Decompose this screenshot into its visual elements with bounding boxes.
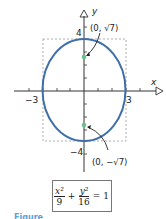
- fraction-y: y² 16: [78, 186, 89, 207]
- fraction-x-denominator: 9: [57, 197, 63, 207]
- x-axis-label: x: [150, 77, 157, 87]
- focus-bottom-label: (0, −√7): [92, 157, 127, 167]
- fraction-x: x² 9: [54, 186, 65, 207]
- focus-top-label: (0, √7): [90, 23, 118, 33]
- y-tick-label-neg4: −4: [70, 147, 84, 157]
- y-axis-label: y: [91, 6, 98, 16]
- x-tick-label-3: 3: [126, 95, 132, 105]
- focus-bottom-point: [82, 123, 87, 128]
- equals-one: = 1: [93, 191, 109, 201]
- focus-top-point: [82, 55, 87, 60]
- plus-sign: +: [68, 191, 76, 201]
- x-tick-label-neg3: −3: [25, 95, 38, 105]
- y-axis-arrow-icon: [80, 10, 88, 17]
- y-tick-label-4: 4: [76, 28, 82, 38]
- figure-caption: Figure: [14, 213, 43, 219]
- fraction-y-denominator: 16: [78, 197, 89, 207]
- equation-box: x² 9 + y² 16 = 1: [52, 180, 112, 212]
- x-axis-arrow-icon: [156, 87, 163, 95]
- fraction-x-numerator: x²: [54, 186, 65, 197]
- fraction-y-numerator: y²: [79, 186, 90, 197]
- focus-top-leader: [87, 33, 100, 55]
